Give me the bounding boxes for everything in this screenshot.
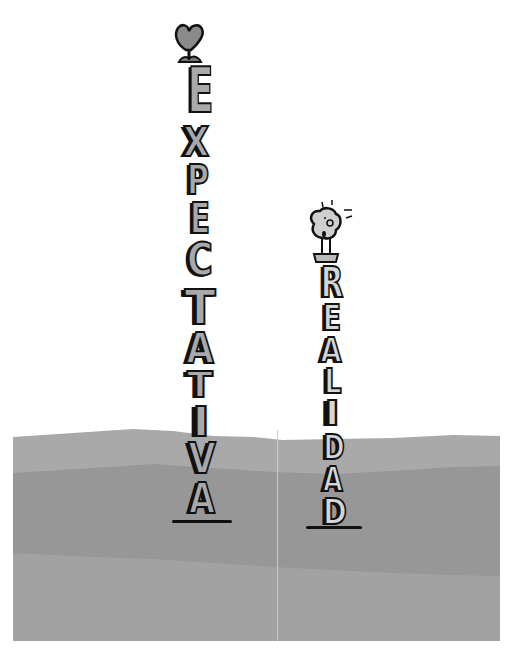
letter-d: D (320, 494, 350, 530)
small-person-head-icon (302, 196, 358, 266)
tower-realidad: R E A L I D A D (0, 0, 517, 657)
cartoon-scene: E X P E C T A T I V A R E A L I D A (0, 0, 517, 657)
tower-shadow (306, 526, 362, 529)
letter-i: I (318, 396, 347, 430)
